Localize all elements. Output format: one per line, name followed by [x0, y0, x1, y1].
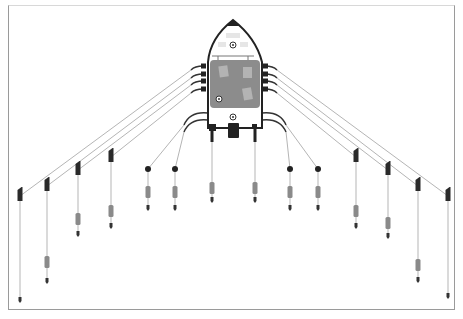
- bow-panel: [240, 42, 248, 47]
- outrigger-rig: [446, 187, 451, 299]
- side-line: [148, 125, 184, 169]
- outrigger-line: [277, 85, 388, 170]
- rod-holder-icon: [201, 72, 206, 77]
- planer-board-icon: [18, 187, 23, 201]
- lure-icon: [77, 231, 80, 237]
- rigs: [18, 128, 451, 303]
- engine-icon: [228, 123, 239, 138]
- weight-icon: [416, 259, 421, 271]
- bow-panel: [226, 33, 240, 38]
- weight-icon: [210, 182, 215, 194]
- float-icon: [145, 166, 151, 172]
- side-arm: [262, 120, 286, 132]
- deck-hatch: [218, 65, 228, 77]
- weight-icon: [45, 256, 50, 268]
- outrigger-line: [277, 93, 356, 157]
- downrigger-rig: [253, 128, 258, 203]
- lure-icon: [387, 233, 390, 239]
- lure-icon: [110, 223, 113, 229]
- lure-icon: [317, 205, 320, 211]
- lure-icon: [19, 297, 22, 303]
- lure-icon: [147, 205, 150, 211]
- lure-icon: [289, 205, 292, 211]
- lure-icon: [355, 223, 358, 229]
- planer-board-icon: [386, 161, 391, 175]
- outrigger-line: [47, 78, 191, 186]
- rod-holder-icon: [201, 87, 206, 92]
- weight-icon: [173, 186, 178, 198]
- float-icon: [287, 166, 293, 172]
- lure-icon: [417, 277, 420, 283]
- planer-board-icon: [416, 177, 421, 191]
- bow-panel: [218, 42, 226, 47]
- rod-holder-icon: [263, 87, 268, 92]
- side-line: [286, 132, 290, 169]
- outrigger-rig: [45, 177, 50, 284]
- outrigger-line: [20, 70, 191, 196]
- planer-board-icon: [45, 177, 50, 191]
- lure-icon: [211, 197, 214, 203]
- weight-icon: [109, 205, 114, 217]
- outrigger-rig: [18, 187, 23, 303]
- outrigger-line: [277, 70, 448, 196]
- side-arm: [184, 113, 208, 125]
- weight-icon: [288, 186, 293, 198]
- planer-board-icon: [76, 161, 81, 175]
- deck-hatch: [243, 67, 252, 78]
- rod-holder-icon: [263, 79, 268, 84]
- float-rig: [287, 166, 293, 211]
- side-arm: [184, 120, 208, 132]
- outrigger-rig: [354, 148, 359, 229]
- weight-icon: [354, 205, 359, 217]
- weight-icon: [386, 217, 391, 229]
- side-line: [286, 125, 318, 169]
- rod-holder-icon: [201, 79, 206, 84]
- rod-holder-icon: [263, 64, 268, 69]
- planer-board-icon: [446, 187, 451, 201]
- lure-icon: [254, 197, 257, 203]
- lure-icon: [447, 293, 450, 299]
- rod-holder-icon: [201, 64, 206, 69]
- outrigger-line: [277, 78, 418, 186]
- outrigger-line: [78, 85, 191, 170]
- downrigger-rig: [210, 128, 215, 203]
- planer-board-icon: [354, 148, 359, 162]
- trolling-spread-diagram: [0, 0, 463, 319]
- side-arm: [262, 113, 286, 125]
- rod-holder-icon: [263, 72, 268, 77]
- outrigger-rig: [416, 177, 421, 283]
- side-line: [175, 132, 184, 169]
- planer-board-icon: [109, 148, 114, 162]
- outrigger-rig: [386, 161, 391, 239]
- boat: [201, 20, 268, 138]
- downrigger-cable: [254, 128, 257, 142]
- weight-icon: [76, 213, 81, 225]
- float-rig: [145, 166, 151, 211]
- weight-icon: [146, 186, 151, 198]
- weight-icon: [253, 182, 258, 194]
- lure-icon: [46, 278, 49, 284]
- outrigger-rig: [109, 148, 114, 229]
- float-icon: [315, 166, 321, 172]
- float-rig: [315, 166, 321, 211]
- float-icon: [172, 166, 178, 172]
- outrigger-line: [111, 93, 191, 157]
- weight-icon: [316, 186, 321, 198]
- lure-icon: [174, 205, 177, 211]
- outrigger-rig: [76, 161, 81, 237]
- float-rig: [172, 166, 178, 211]
- downrigger-cable: [211, 128, 214, 142]
